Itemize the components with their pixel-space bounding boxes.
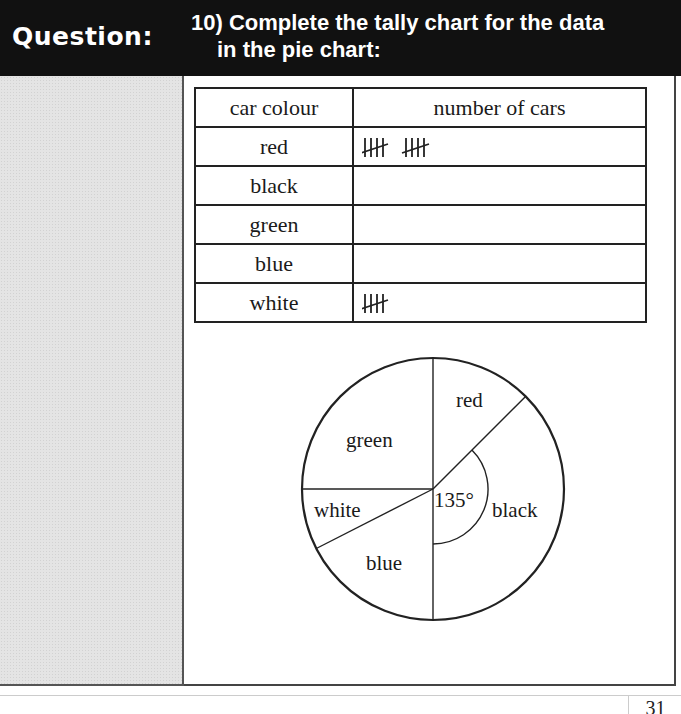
question-line-1: 10) Complete the tally chart for the dat… — [191, 10, 604, 35]
page-number: 31 — [628, 695, 681, 714]
colour-cell: white — [195, 283, 353, 322]
question-header: Question: 10) Complete the tally chart f… — [0, 0, 681, 76]
slice-label-blue: blue — [366, 551, 402, 575]
tally-cell[interactable] — [353, 205, 646, 244]
table-row: black — [195, 166, 646, 205]
table-row: white — [195, 283, 646, 322]
question-text: 10) Complete the tally chart for the dat… — [191, 9, 604, 63]
tally-marks-icon — [362, 290, 402, 316]
colour-cell: blue — [195, 244, 353, 283]
tally-table: car colour number of cars red black gree… — [194, 87, 647, 323]
table-row: blue — [195, 244, 646, 283]
footer-divider — [0, 695, 681, 696]
slice-label-black: black — [492, 498, 538, 522]
tally-marks-icon — [362, 134, 452, 160]
tally-cell[interactable] — [353, 283, 646, 322]
table-row: red — [195, 127, 646, 166]
table-header-row: car colour number of cars — [195, 88, 646, 127]
table-row: green — [195, 205, 646, 244]
tally-cell[interactable] — [353, 166, 646, 205]
question-label: Question: — [12, 22, 153, 51]
tally-cell[interactable] — [353, 244, 646, 283]
pie-chart: red black blue white green 135° — [296, 350, 572, 628]
tally-cell[interactable] — [353, 127, 646, 166]
question-line-2: in the pie chart: — [191, 36, 604, 63]
colour-cell: black — [195, 166, 353, 205]
colour-cell: red — [195, 127, 353, 166]
slice-label-red: red — [456, 388, 483, 412]
angle-label: 135° — [434, 488, 474, 512]
column-header-colour: car colour — [195, 88, 353, 127]
slice-label-white: white — [314, 498, 361, 522]
left-margin-panel — [0, 76, 184, 686]
colour-cell: green — [195, 205, 353, 244]
column-header-count: number of cars — [353, 88, 646, 127]
slice-label-green: green — [346, 428, 393, 452]
